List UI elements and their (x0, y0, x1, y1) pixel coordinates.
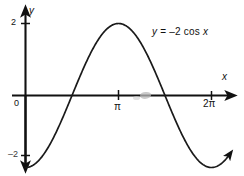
y-tick-label-negative-2: –2 (8, 150, 18, 159)
graph-figure: y x 2 –2 0 π 2π y = –2 cos x (0, 0, 244, 176)
origin-label: 0 (14, 99, 19, 108)
equation-right-hand-side: –2 cos (169, 26, 200, 37)
equation-rhs-variable: x (203, 26, 208, 37)
x-axis-label: x (222, 72, 227, 82)
y-axis-label: y (29, 6, 34, 16)
equation-lhs-variable: y (152, 26, 157, 37)
y-tick-label-2: 2 (11, 18, 16, 27)
paper-smudge-secondary (133, 96, 140, 100)
x-tick-label-pi: π (114, 102, 121, 112)
equation-equals-sign: = (160, 26, 166, 37)
x-tick-label-2pi: 2π (203, 99, 215, 109)
equation-annotation: y = –2 cos x (152, 27, 208, 37)
